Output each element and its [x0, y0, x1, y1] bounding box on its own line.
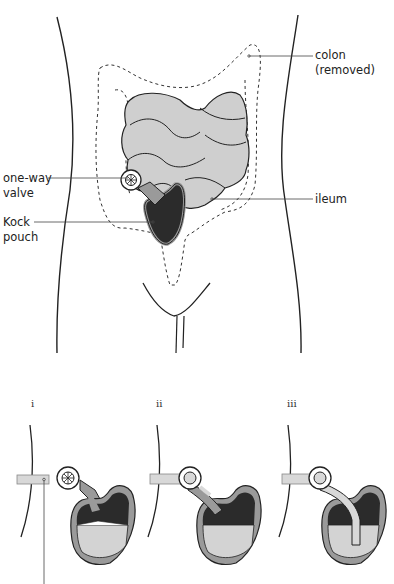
thigh-line-right — [183, 316, 184, 348]
step-panel-i — [17, 425, 135, 584]
label-pouch-line2: pouch — [3, 230, 38, 245]
kock-pouch-diagram — [0, 0, 394, 584]
thigh-line-left — [176, 316, 177, 353]
label-ileum: ileum — [315, 192, 347, 207]
step-label-ii: ii — [156, 398, 162, 409]
label-valve-line1: one-way — [3, 171, 52, 186]
label-colon-line2: (removed) — [315, 63, 375, 78]
label-colon-line1: colon — [315, 48, 375, 63]
label-pouch-line1: Kock — [3, 215, 38, 230]
label-valve-line2: valve — [3, 186, 52, 201]
label-colon: colon (removed) — [315, 48, 375, 78]
step-label-iii: iii — [287, 398, 297, 409]
step-label-i: i — [31, 398, 34, 409]
groin-outline — [143, 283, 210, 316]
torso-left-outline — [57, 17, 73, 353]
torso-right-outline — [282, 15, 301, 353]
step-panel-iii — [279, 425, 386, 564]
label-kock-pouch: Kock pouch — [3, 215, 38, 245]
label-one-way-valve: one-way valve — [3, 171, 52, 201]
step-panel-ii — [148, 425, 261, 564]
